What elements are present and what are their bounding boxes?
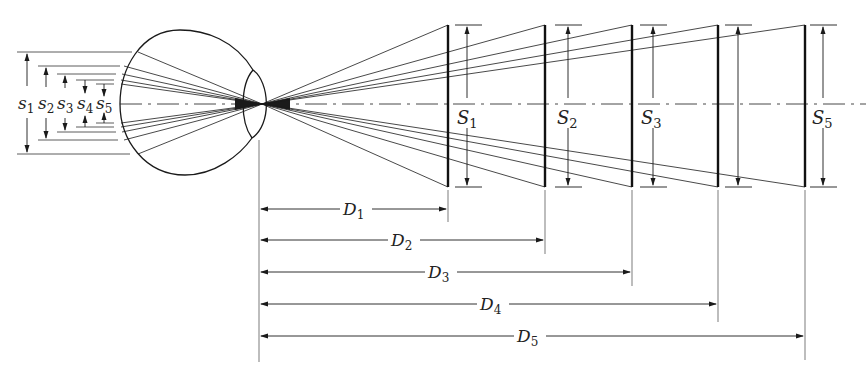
retinal-labels: s1 s2 s3 s4 s5 [18, 93, 112, 116]
svg-text:D3: D3 [427, 262, 449, 285]
object-screens [448, 25, 805, 187]
svg-text:D4: D4 [479, 294, 502, 317]
eye-visual-angle-diagram: s1 s2 s3 s4 s5 S1 S2 S3 S5 D1 D2 D3 D4 D… [0, 0, 866, 373]
svg-text:s2: s2 [38, 93, 54, 116]
svg-text:D2: D2 [390, 230, 412, 253]
svg-text:S2: S2 [557, 107, 578, 131]
svg-text:s3: s3 [57, 93, 73, 116]
svg-text:D1: D1 [342, 199, 364, 222]
svg-text:D5: D5 [516, 326, 538, 349]
distance-dimensions [261, 209, 803, 336]
distance-extension-lines [259, 140, 805, 362]
rays-to-objects [262, 25, 805, 187]
object-labels: S1 S2 S3 S5 [457, 107, 833, 131]
svg-text:S1: S1 [457, 107, 478, 131]
svg-text:S3: S3 [641, 107, 662, 131]
svg-text:s1: s1 [18, 93, 34, 116]
svg-text:S5: S5 [812, 107, 833, 131]
distance-labels: D1 D2 D3 D4 D5 [342, 199, 538, 349]
svg-text:s4: s4 [77, 93, 94, 116]
svg-text:s5: s5 [96, 93, 112, 116]
